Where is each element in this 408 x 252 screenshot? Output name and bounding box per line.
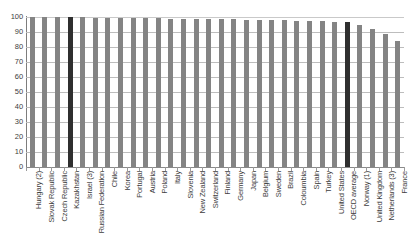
bar[interactable] xyxy=(294,21,299,167)
x-category-label: Switzerland xyxy=(212,171,220,208)
x-category-label: Poland xyxy=(161,171,169,193)
x-category-label: Spain xyxy=(313,171,321,189)
bar[interactable] xyxy=(257,20,262,167)
x-category-label: Korea xyxy=(124,171,132,190)
y-axis-tick-labels: 0102030405060708090100 xyxy=(0,0,23,252)
x-category-label: Norway (1) xyxy=(363,171,371,206)
bar[interactable] xyxy=(194,19,199,167)
x-category-label: Austria xyxy=(149,171,157,193)
bar[interactable] xyxy=(55,17,60,167)
bar[interactable] xyxy=(244,20,249,167)
bar[interactable] xyxy=(370,29,375,167)
x-category-label: Kazakhstan xyxy=(73,171,81,209)
x-category-label: New Zealand xyxy=(199,171,207,214)
x-category-label: Slovenia xyxy=(187,171,195,199)
bar[interactable] xyxy=(168,19,173,168)
bar[interactable] xyxy=(118,18,123,167)
x-category-label: Coloumbia xyxy=(300,171,308,206)
x-category-label: Belgium xyxy=(262,171,270,197)
x-category-label: France xyxy=(401,171,408,193)
y-tick-label: 80 xyxy=(1,43,23,51)
x-category-label: Turkey xyxy=(325,171,333,193)
bar-chart: 0102030405060708090100 Hungary (2)Slovak… xyxy=(0,0,408,252)
bar[interactable] xyxy=(231,19,236,167)
x-category-label: Netherlands (3) xyxy=(388,171,396,220)
x-category-label: United Kingdom xyxy=(376,171,384,222)
x-category-label: Brazil xyxy=(287,171,295,189)
bar[interactable] xyxy=(80,17,85,167)
y-tick-label: 100 xyxy=(1,13,23,21)
plot-area xyxy=(26,17,404,167)
y-tick-label: 0 xyxy=(1,163,23,171)
x-category-label: United States xyxy=(338,171,346,214)
bar[interactable] xyxy=(131,18,136,167)
bar[interactable] xyxy=(156,18,161,167)
x-category-label: OECD average xyxy=(350,171,358,220)
x-category-label: Finland xyxy=(224,171,232,195)
bar[interactable] xyxy=(181,19,186,167)
x-category-label: Hungary (2) xyxy=(35,171,43,209)
bar[interactable] xyxy=(206,19,211,167)
y-tick-label: 10 xyxy=(1,148,23,156)
x-category-label: Chile xyxy=(111,171,119,187)
y-tick-label: 20 xyxy=(1,133,23,141)
bar[interactable] xyxy=(68,17,73,167)
bar[interactable] xyxy=(357,25,362,167)
x-category-label: Israel (3) xyxy=(86,171,94,199)
x-category-label: Russian Federation xyxy=(98,171,106,233)
bar[interactable] xyxy=(143,18,148,167)
bar[interactable] xyxy=(105,18,110,167)
x-category-label: Slovak Republic xyxy=(48,171,56,223)
bar[interactable] xyxy=(93,18,98,167)
bar[interactable] xyxy=(30,17,35,167)
bar[interactable] xyxy=(219,19,224,167)
bar[interactable] xyxy=(332,22,337,168)
bar[interactable] xyxy=(42,17,47,167)
y-tick-label: 70 xyxy=(1,58,23,66)
y-tick-label: 50 xyxy=(1,88,23,96)
bar[interactable] xyxy=(320,21,325,167)
bar[interactable] xyxy=(345,22,350,167)
y-tick-label: 90 xyxy=(1,28,23,36)
x-category-label: Germany xyxy=(237,171,245,201)
x-category-label: Czech Republic xyxy=(61,171,69,221)
y-tick-label: 30 xyxy=(1,118,23,126)
bar[interactable] xyxy=(383,34,388,167)
x-category-label: Japan xyxy=(250,171,258,191)
y-tick-label: 60 xyxy=(1,73,23,81)
x-category-label: Italy xyxy=(174,171,182,184)
x-category-label: Sweden xyxy=(275,171,283,197)
bar[interactable] xyxy=(307,21,312,167)
bar[interactable] xyxy=(269,20,274,167)
x-axis-category-labels: Hungary (2)Slovak RepublicCzech Republic… xyxy=(26,171,404,252)
bar[interactable] xyxy=(395,41,400,167)
x-category-label: Portugal xyxy=(136,171,144,198)
y-tick-label: 40 xyxy=(1,103,23,111)
bars-group xyxy=(26,17,404,167)
bar[interactable] xyxy=(282,20,287,167)
